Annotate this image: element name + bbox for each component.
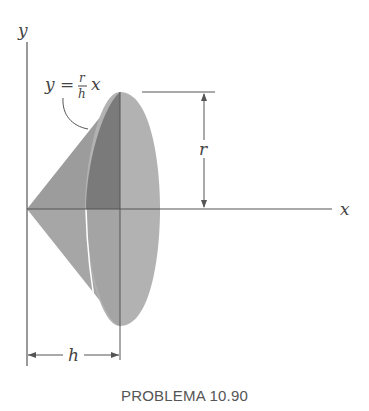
y-axis-label: y bbox=[17, 20, 28, 40]
r-arrow-up bbox=[201, 93, 207, 101]
equation-numerator: r bbox=[79, 71, 86, 85]
r-label: r bbox=[199, 139, 208, 159]
equation-equals: = bbox=[60, 74, 74, 94]
figure-caption: PROBLEMA 10.90 bbox=[0, 387, 369, 404]
h-label: h bbox=[68, 345, 79, 365]
equation-leader bbox=[63, 98, 88, 129]
h-arrow-left bbox=[28, 352, 36, 358]
r-arrow-down bbox=[201, 200, 207, 208]
equation-denominator: h bbox=[78, 87, 86, 101]
cone-diagram: y x y = r h x r h bbox=[0, 0, 369, 411]
x-axis-label: x bbox=[340, 199, 350, 219]
h-arrow-right bbox=[111, 352, 119, 358]
equation-lhs: y bbox=[44, 74, 55, 94]
equation-var: x bbox=[91, 74, 101, 94]
